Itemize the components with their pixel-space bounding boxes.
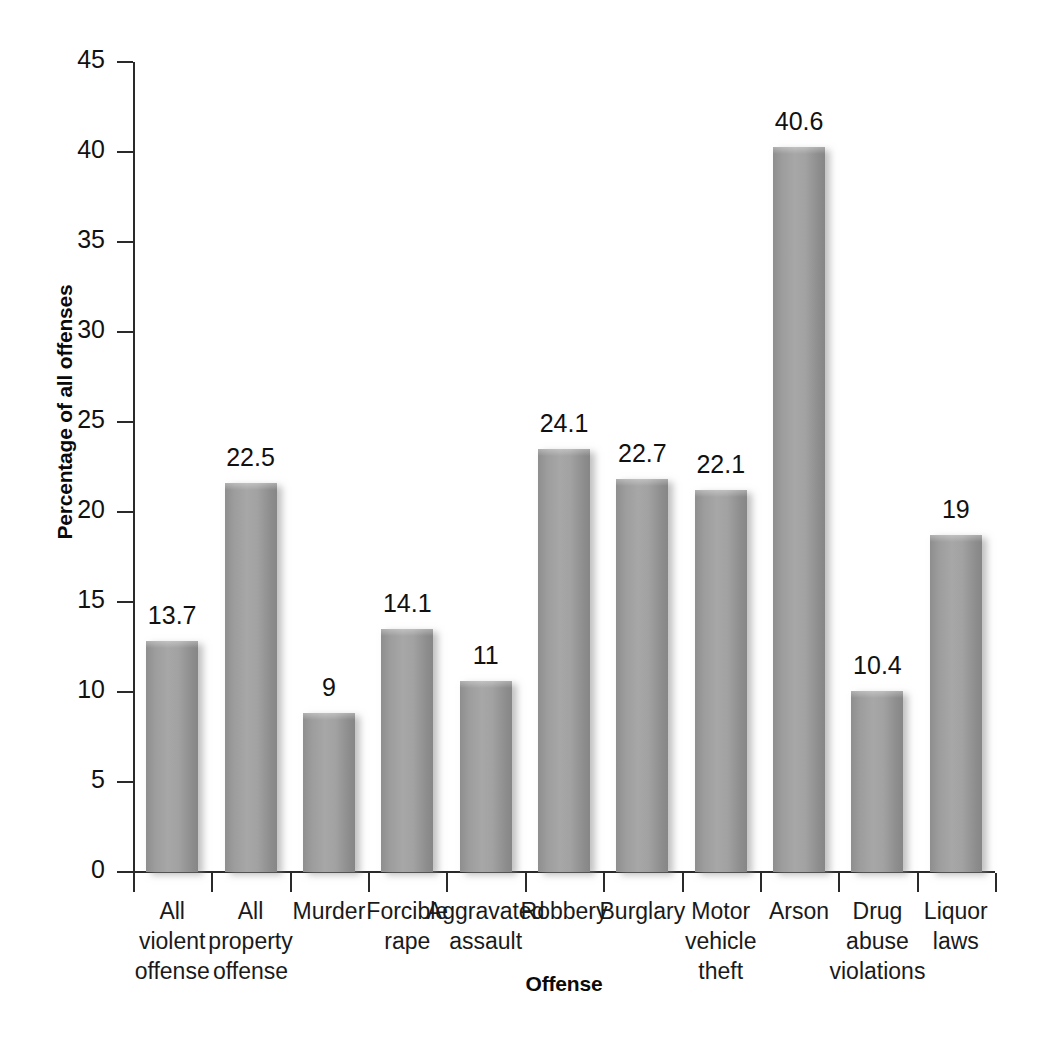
- bar[interactable]: [538, 449, 590, 872]
- y-axis-tick-label: 45: [25, 45, 105, 74]
- y-axis-tick: [117, 331, 133, 333]
- x-axis-category-label-line: violations: [807, 956, 947, 986]
- y-axis-tick-label: 20: [25, 495, 105, 524]
- y-axis-tick-label: 25: [25, 405, 105, 434]
- y-axis-tick: [117, 871, 133, 873]
- bar-highlight: [303, 713, 355, 720]
- bar-highlight: [773, 147, 825, 154]
- x-axis-tick: [603, 873, 605, 892]
- x-axis-category-label-line: property: [181, 926, 321, 956]
- y-axis-tick: [117, 511, 133, 513]
- bar-value-label: 24.1: [504, 409, 624, 438]
- x-axis-category-label-line: laws: [886, 926, 1026, 956]
- bar-value-label: 22.5: [191, 443, 311, 472]
- y-axis-tick-label: 5: [25, 765, 105, 794]
- bar-highlight: [460, 681, 512, 688]
- bar-highlight: [225, 483, 277, 490]
- bar-value-label: 11: [426, 641, 546, 670]
- y-axis-tick-label: 15: [25, 585, 105, 614]
- x-axis-tick: [760, 873, 762, 892]
- x-axis-tick: [446, 873, 448, 892]
- y-axis-tick-label: 10: [25, 675, 105, 704]
- x-axis-tick: [290, 873, 292, 892]
- y-axis-tick: [117, 421, 133, 423]
- bar-highlight: [695, 490, 747, 497]
- bar[interactable]: [616, 479, 668, 872]
- x-axis-tick: [525, 873, 527, 892]
- x-axis-tick: [838, 873, 840, 892]
- x-axis-category-label-line: assault: [416, 926, 556, 956]
- bar[interactable]: [930, 535, 982, 872]
- bar[interactable]: [303, 713, 355, 872]
- bar[interactable]: [773, 147, 825, 872]
- y-axis-tick-label: 0: [25, 855, 105, 884]
- bar-value-label: 22.1: [661, 450, 781, 479]
- y-axis-tick-label: 30: [25, 315, 105, 344]
- y-axis-line: [133, 62, 135, 872]
- bar-highlight: [381, 629, 433, 636]
- x-axis-category-label-line: vehicle: [651, 926, 791, 956]
- bar-value-label: 14.1: [347, 589, 467, 618]
- bar[interactable]: [851, 691, 903, 872]
- x-axis-tick: [995, 873, 997, 892]
- x-axis-tick: [133, 873, 135, 892]
- x-axis-tick: [682, 873, 684, 892]
- x-axis-category-label: Liquorlaws: [886, 896, 1026, 956]
- bar[interactable]: [146, 641, 198, 872]
- bar[interactable]: [695, 490, 747, 872]
- y-axis-tick-label: 35: [25, 225, 105, 254]
- x-axis-tick: [211, 873, 213, 892]
- y-axis-tick: [117, 61, 133, 63]
- y-axis-tick: [117, 241, 133, 243]
- bar-chart: Percentage of all offenses Offense 05101…: [0, 0, 1047, 1043]
- bar-value-label: 10.4: [817, 651, 937, 680]
- y-axis-tick: [117, 151, 133, 153]
- x-axis-category-label-line: offense: [181, 956, 321, 986]
- x-axis-tick: [917, 873, 919, 892]
- bar-value-label: 9: [269, 673, 389, 702]
- bar-highlight: [616, 479, 668, 486]
- bar-highlight: [146, 641, 198, 648]
- bar-value-label: 40.6: [739, 107, 859, 136]
- bar-value-label: 19: [896, 495, 1016, 524]
- y-axis-tick-label: 40: [25, 135, 105, 164]
- x-axis-category-label-line: Liquor: [886, 896, 1026, 926]
- bar-highlight: [930, 535, 982, 542]
- bar-highlight: [851, 691, 903, 698]
- x-axis-category-label-line: theft: [651, 956, 791, 986]
- bar-value-label: 13.7: [112, 601, 232, 630]
- y-axis-tick: [117, 781, 133, 783]
- bar[interactable]: [460, 681, 512, 872]
- y-axis-tick: [117, 691, 133, 693]
- x-axis-tick: [368, 873, 370, 892]
